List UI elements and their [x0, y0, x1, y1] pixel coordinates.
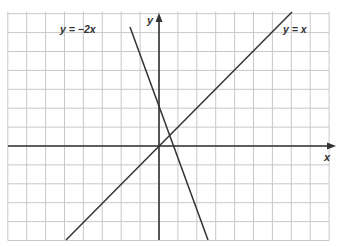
line-label-y-equals-x: y = x: [282, 23, 308, 35]
grid-lines: [8, 12, 329, 241]
plotted-lines: [66, 12, 292, 240]
line-y-equals-x: [66, 12, 292, 240]
x-axis-label: x: [323, 151, 331, 163]
axes: [8, 13, 336, 240]
line-label-y-equals-neg-2x: y = −2x: [59, 23, 97, 35]
y-axis-label: y: [146, 14, 154, 26]
x-axis-arrow-icon: [327, 143, 336, 150]
coordinate-graph: x y y = −2x y = x: [0, 0, 340, 247]
y-axis-arrow-icon: [156, 13, 163, 22]
